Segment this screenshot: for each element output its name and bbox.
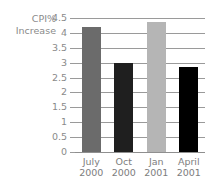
y-axis-tick-label: 4 bbox=[34, 28, 67, 38]
y-axis-tick-label: 3 bbox=[34, 58, 67, 68]
y-axis-tick-label: 3.5 bbox=[34, 43, 67, 53]
y-axis-tick-label: 0.5 bbox=[34, 132, 67, 142]
gridline bbox=[75, 152, 205, 153]
plot-area bbox=[75, 18, 205, 152]
y-axis-tick-label: 4.5 bbox=[34, 13, 67, 23]
y-axis-tick-label: 2 bbox=[34, 87, 67, 97]
x-axis-tick-label: April2001 bbox=[163, 156, 212, 178]
gridline bbox=[75, 18, 205, 19]
cpi-bar-chart: CPI% Increase 4.543.532.521.510.50 July2… bbox=[0, 0, 212, 185]
bar bbox=[82, 27, 101, 152]
y-axis-tick-label: 0 bbox=[34, 147, 67, 157]
bar bbox=[147, 22, 166, 152]
y-axis-tick-label: 2.5 bbox=[34, 73, 67, 83]
y-axis-tick-label: 1 bbox=[34, 117, 67, 127]
bar bbox=[114, 63, 133, 152]
bar bbox=[179, 67, 198, 152]
y-axis-tick-label: 1.5 bbox=[34, 102, 67, 112]
